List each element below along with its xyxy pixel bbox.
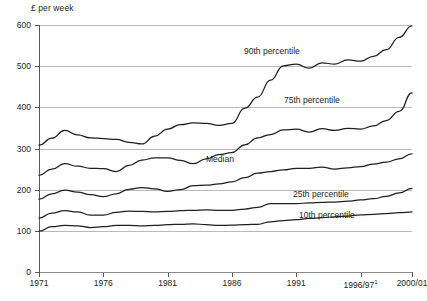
series-line-90th-percentile [39, 26, 412, 145]
series-line-25th-percentile [39, 188, 412, 218]
series-label-75th-percentile: 75th percentile [284, 96, 340, 105]
chart-container: £ per week 0100200300400500600 197119761… [0, 0, 427, 301]
series-label-10th-percentile: 10th percentile [299, 211, 355, 220]
series-label-90th-percentile: 90th percentile [244, 47, 300, 56]
series-label-25th-percentile: 25th percentile [293, 190, 349, 199]
series-lines-group [0, 0, 427, 301]
series-label-median: Median [206, 155, 234, 164]
